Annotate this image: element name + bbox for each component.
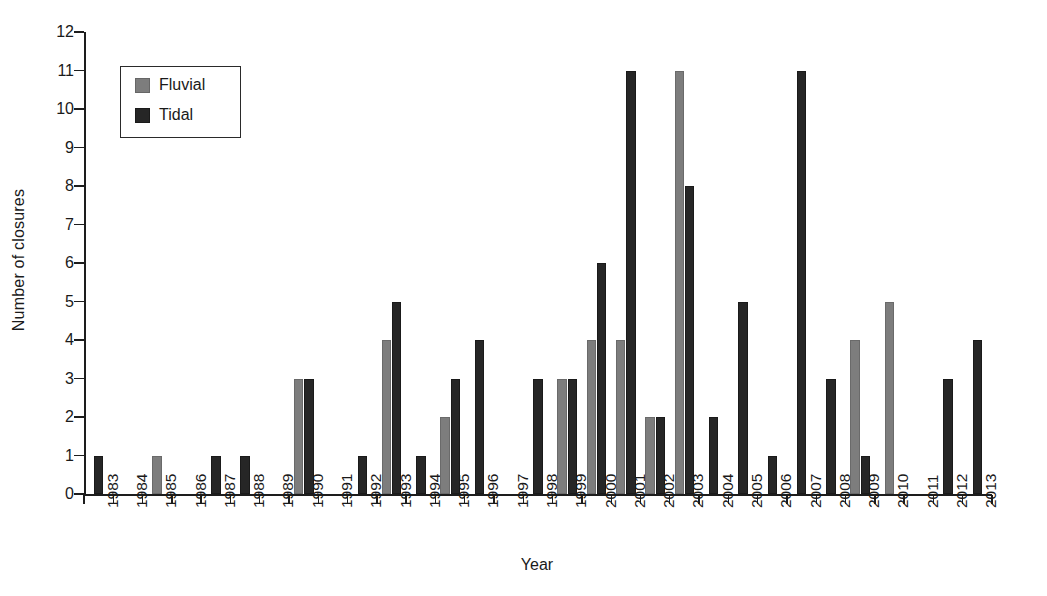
bar-tidal-2000 [597,263,607,494]
bar-fluvial-2000 [587,340,597,494]
bar-tidal-1983 [94,456,104,495]
bar-tidal-2013 [973,340,983,494]
y-axis-title: Number of closures [10,150,28,370]
y-tick-8 [74,185,84,186]
bar-fluvial-1995 [440,417,450,494]
y-tick-label-11: 11 [30,63,74,79]
y-tick-label-3: 3 [30,371,74,387]
bar-tidal-1994 [416,456,426,495]
y-tick-5 [74,301,84,302]
y-tick-label-4: 4 [30,332,74,348]
bar-tidal-2001 [626,71,636,495]
y-tick-10 [74,108,84,109]
tidal-swatch-icon [135,108,150,123]
fluvial-swatch-icon [135,78,150,93]
bar-chart: Number of closures 0123456789101112 1983… [0,0,1047,596]
y-tick-2 [74,416,84,417]
bar-tidal-1990 [304,379,314,495]
y-tick-label-12: 12 [30,24,74,40]
bar-tidal-2004 [709,417,719,494]
bar-tidal-1992 [358,456,368,495]
bar-fluvial-1985 [152,456,162,495]
bar-fluvial-2001 [616,340,626,494]
bar-fluvial-2009 [850,340,860,494]
y-tick-6 [74,262,84,263]
bar-tidal-2007 [797,71,807,495]
bar-fluvial-2010 [885,302,895,495]
bar-tidal-1995 [451,379,461,495]
legend-entry-tidal: Tidal [135,107,193,123]
legend: Fluvial Tidal [120,66,241,138]
y-tick-4 [74,339,84,340]
y-tick-3 [74,378,84,379]
y-tick-label-1: 1 [30,448,74,464]
bar-tidal-2006 [768,456,778,495]
bar-tidal-2005 [738,302,748,495]
legend-entry-fluvial: Fluvial [135,77,205,93]
legend-label-fluvial: Fluvial [159,77,205,93]
y-tick-12 [74,31,84,32]
y-tick-label-2: 2 [30,409,74,425]
bar-tidal-2003 [685,186,695,494]
bar-tidal-2002 [656,417,666,494]
bar-fluvial-1990 [294,379,304,495]
y-tick-label-5: 5 [30,294,74,310]
y-tick-label-8: 8 [30,178,74,194]
bar-tidal-1996 [475,340,485,494]
bar-tidal-2009 [861,456,871,495]
legend-label-tidal: Tidal [159,107,193,123]
bar-tidal-1999 [568,379,578,495]
bar-tidal-1988 [240,456,250,495]
y-tick-1 [74,455,84,456]
bar-fluvial-2003 [675,71,685,495]
y-tick-label-7: 7 [30,217,74,233]
bar-tidal-1998 [533,379,543,495]
y-tick-label-10: 10 [30,101,74,117]
bar-tidal-2008 [826,379,836,495]
y-tick-label-9: 9 [30,140,74,156]
bar-fluvial-1993 [382,340,392,494]
x-axis-title: Year [84,556,990,574]
bar-fluvial-2002 [645,417,655,494]
bar-fluvial-1999 [557,379,567,495]
y-tick-label-6: 6 [30,255,74,271]
y-tick-7 [74,224,84,225]
y-tick-9 [74,147,84,148]
y-tick-11 [74,70,84,71]
y-tick-label-0: 0 [30,486,74,502]
bar-tidal-1987 [211,456,221,495]
x-tick-0 [83,495,84,504]
bar-tidal-1993 [392,302,402,495]
bar-tidal-2012 [943,379,953,495]
